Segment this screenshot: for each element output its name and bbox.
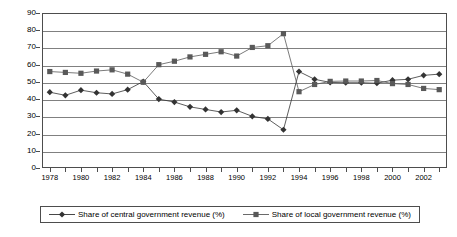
- x-axis-tick-mark: [377, 168, 378, 172]
- square-marker-icon: [437, 87, 442, 92]
- diamond-marker-icon: [436, 71, 442, 77]
- y-axis-tick-label: 90: [8, 9, 36, 17]
- square-marker-icon: [187, 54, 192, 59]
- diamond-marker-icon: [296, 68, 302, 74]
- x-axis-tick-label: 1998: [353, 174, 370, 182]
- legend-label: Share of local government revenue (%): [272, 210, 411, 219]
- square-marker-icon: [421, 86, 426, 91]
- diamond-marker-icon: [405, 76, 411, 82]
- square-marker-icon: [328, 79, 333, 84]
- y-axis-tick-mark: [36, 134, 40, 135]
- diamond-marker-icon: [421, 72, 427, 78]
- revenue-share-chart: 0102030405060708090 19781980198219841986…: [0, 0, 457, 237]
- square-marker-icon: [203, 52, 208, 57]
- legend-entry: Share of central government revenue (%): [49, 210, 225, 219]
- diamond-marker-icon: [49, 210, 75, 219]
- diamond-marker-icon: [280, 127, 286, 133]
- x-axis-tick-mark: [283, 168, 284, 172]
- square-marker-icon: [243, 210, 269, 219]
- square-marker-icon: [253, 212, 258, 217]
- series-layer: [42, 13, 447, 168]
- x-axis-tick-mark: [315, 168, 316, 172]
- square-marker-icon: [63, 70, 68, 75]
- diamond-marker-icon: [234, 107, 240, 113]
- square-marker-icon: [94, 68, 99, 73]
- x-axis-tick-label: 1978: [41, 174, 58, 182]
- x-axis-tick-label: 1992: [260, 174, 277, 182]
- x-axis-labels: 1978198019821984198619881990199219941996…: [42, 174, 447, 186]
- diamond-marker-icon: [311, 76, 317, 82]
- square-marker-icon: [405, 82, 410, 87]
- x-axis-tick-mark: [408, 168, 409, 172]
- y-axis-tick-mark: [36, 168, 40, 169]
- chart-legend: Share of central government revenue (%)S…: [40, 206, 420, 223]
- x-axis-tick-mark: [392, 168, 393, 172]
- x-axis-tick-label: 1980: [73, 174, 90, 182]
- x-axis-tick-label: 1986: [166, 174, 183, 182]
- x-axis-tick-mark: [252, 168, 253, 172]
- x-axis-tick-mark: [361, 168, 362, 172]
- x-axis-tick-mark: [424, 168, 425, 172]
- square-marker-icon: [125, 72, 130, 77]
- x-axis-tick-mark: [65, 168, 66, 172]
- diamond-marker-icon: [187, 104, 193, 110]
- x-axis-tick-mark: [159, 168, 160, 172]
- x-axis-tick-mark: [299, 168, 300, 172]
- y-axis-tick-label: 30: [8, 112, 36, 120]
- square-marker-icon: [374, 78, 379, 83]
- y-axis-tick-mark: [36, 65, 40, 66]
- square-marker-icon: [141, 80, 146, 85]
- diamond-marker-icon: [59, 211, 65, 217]
- x-axis-tick-mark: [268, 168, 269, 172]
- x-axis-tick-mark: [112, 168, 113, 172]
- x-axis-tick-label: 1984: [135, 174, 152, 182]
- y-axis: 0102030405060708090: [6, 13, 36, 168]
- square-marker-icon: [390, 81, 395, 86]
- x-axis-tick-mark: [97, 168, 98, 172]
- diamond-marker-icon: [125, 87, 131, 93]
- square-marker-icon: [156, 62, 161, 67]
- diamond-marker-icon: [93, 90, 99, 96]
- legend-entry: Share of local government revenue (%): [243, 210, 411, 219]
- x-axis-tick-label: 1988: [197, 174, 214, 182]
- square-marker-icon: [109, 67, 114, 72]
- y-axis-tick-mark: [36, 30, 40, 31]
- square-marker-icon: [312, 82, 317, 87]
- diamond-marker-icon: [109, 91, 115, 97]
- square-marker-icon: [343, 78, 348, 83]
- legend-label: Share of central government revenue (%): [78, 210, 225, 219]
- x-axis-tick-label: 2000: [384, 174, 401, 182]
- x-axis-tick-label: 1996: [322, 174, 339, 182]
- y-axis-tick-label: 80: [8, 26, 36, 34]
- y-axis-tick-label: 0: [8, 164, 36, 172]
- y-axis-tick-mark: [36, 99, 40, 100]
- square-marker-icon: [47, 69, 52, 74]
- diamond-marker-icon: [171, 99, 177, 105]
- y-axis-tick-mark: [36, 116, 40, 117]
- x-axis-tick-mark: [439, 168, 440, 172]
- x-axis-tick-label: 1990: [228, 174, 245, 182]
- diamond-marker-icon: [47, 89, 53, 95]
- x-axis-tick-mark: [330, 168, 331, 172]
- x-axis-tick-mark: [237, 168, 238, 172]
- square-marker-icon: [281, 31, 286, 36]
- x-axis-tick-mark: [221, 168, 222, 172]
- x-axis-tick-mark: [346, 168, 347, 172]
- x-axis-tick-mark: [206, 168, 207, 172]
- series-line: [50, 72, 439, 130]
- series-line: [50, 34, 439, 92]
- y-axis-tick-label: 20: [8, 130, 36, 138]
- diamond-marker-icon: [249, 113, 255, 119]
- y-axis-tick-mark: [36, 13, 40, 14]
- diamond-marker-icon: [202, 106, 208, 112]
- square-marker-icon: [359, 78, 364, 83]
- square-marker-icon: [265, 43, 270, 48]
- diamond-marker-icon: [78, 87, 84, 93]
- y-axis-tick-label: 50: [8, 78, 36, 86]
- square-marker-icon: [172, 59, 177, 64]
- y-axis-tick-label: 40: [8, 95, 36, 103]
- x-axis-tick-mark: [81, 168, 82, 172]
- diamond-marker-icon: [62, 92, 68, 98]
- y-axis-tick-mark: [36, 151, 40, 152]
- x-axis-tick-mark: [128, 168, 129, 172]
